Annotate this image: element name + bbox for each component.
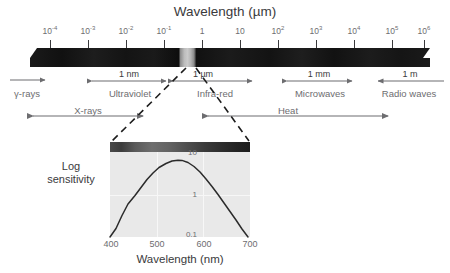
axis-tick-label: 10-4 <box>43 27 58 36</box>
band-label-microwaves: Microwaves <box>295 89 345 99</box>
y-tick-label: 10 <box>188 149 197 157</box>
band-label-ultraviolet: Ultraviolet <box>109 89 151 99</box>
axis-tick-mark <box>316 40 317 48</box>
scale-marker-label: 1 µm <box>193 70 213 79</box>
y-axis-title-line1: Log <box>36 160 106 173</box>
x-tick-label: 700 <box>242 240 257 249</box>
figure-title: Wavelength (µm) <box>0 5 450 19</box>
axis-tick-mark <box>202 40 203 48</box>
visible-color-strip <box>110 142 250 152</box>
axis-tick-mark <box>50 40 51 48</box>
axis-tick-label: 102 <box>272 27 285 36</box>
band-label-infra-red: Infra-red <box>197 89 233 99</box>
axis-tick-mark <box>392 40 393 48</box>
axis-tick-label: 10-3 <box>81 27 96 36</box>
axis-tick-mark <box>424 40 425 48</box>
x-axis-title: Wavelength (nm) <box>110 254 250 266</box>
axis-tick-mark <box>88 40 89 48</box>
spectrum-bar <box>30 48 430 67</box>
scale-marker-label: 1 m <box>402 70 417 79</box>
axis-tick-mark <box>354 40 355 48</box>
axis-tick-label: 10-1 <box>157 27 172 36</box>
em-spectrum-figure: Wavelength (µm) 10-4 10-3 10-2 10-1 1 10… <box>0 0 450 273</box>
axis-tick-label: 106 <box>418 27 431 36</box>
plot-area <box>110 152 250 237</box>
axis-tick-label: 103 <box>310 27 323 36</box>
band-label-radio-waves: Radio waves <box>382 89 436 99</box>
x-tick-label: 400 <box>103 240 118 249</box>
scale-marker-label: 1 mm <box>308 70 331 79</box>
axis-tick-mark <box>278 40 279 48</box>
y-tick-label: 1 <box>193 191 197 199</box>
x-tick-label: 600 <box>196 240 211 249</box>
band-label-x-rays: X-rays <box>74 106 101 116</box>
y-axis-title-line2: sensitivity <box>36 173 106 186</box>
axis-tick-label: 1 <box>200 27 205 36</box>
band-label-gamma-rays: γ-rays <box>14 89 40 99</box>
sensitivity-curve-svg <box>110 152 250 237</box>
sensitivity-curve <box>110 160 248 237</box>
y-axis-title: Log sensitivity <box>36 160 106 185</box>
axis-tick-label: 104 <box>348 27 361 36</box>
axis-tick-label: 10 <box>235 27 244 36</box>
band-label-heat: Heat <box>278 106 298 116</box>
axis-tick-mark <box>126 40 127 48</box>
x-tick-label: 500 <box>149 240 164 249</box>
scale-marker-label: 1 nm <box>119 70 139 79</box>
y-tick-label: 0.1 <box>186 231 197 239</box>
axis-tick-label: 105 <box>386 27 399 36</box>
visible-spectrum-inset-chart <box>110 142 250 237</box>
axis-tick-mark <box>240 40 241 48</box>
axis-tick-mark <box>164 40 165 48</box>
axis-tick-label: 10-2 <box>119 27 134 36</box>
